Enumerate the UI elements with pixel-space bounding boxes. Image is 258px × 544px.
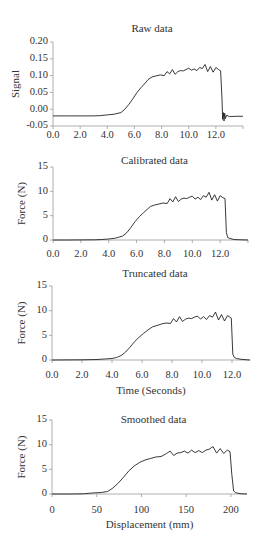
x-tick-labels: 0.02.04.06.08.010.012.0 <box>45 369 241 380</box>
y-tick-label: 0 <box>42 353 47 364</box>
chart-title: Raw data <box>131 22 172 34</box>
y-tick-label: 15 <box>37 413 48 424</box>
x-tick-label: 6.0 <box>130 248 143 259</box>
y-tick-label: -0.05 <box>26 119 48 130</box>
x-tick-labels: 050100150200 <box>49 504 238 515</box>
y-tick-labels: 151050 <box>37 279 48 364</box>
x-tick-label: 8.0 <box>155 129 168 140</box>
x-tick-label: 12.0 <box>211 248 229 259</box>
chart-title: Truncated data <box>122 267 187 279</box>
x-tick-label: 2.0 <box>74 129 87 140</box>
x-tick-label: 4.0 <box>105 369 118 380</box>
y-tick-labels: 0.200.150.100.050.00-0.05 <box>26 35 48 130</box>
y-axis-label: Force (N) <box>15 435 28 478</box>
y-tick-label: 5 <box>42 329 47 340</box>
x-tick-label: 10.0 <box>183 248 201 259</box>
y-tick-labels: 151050 <box>37 413 48 498</box>
x-tick-label: 0.0 <box>45 369 58 380</box>
x-tick-label: 50 <box>91 504 102 515</box>
data-curve <box>52 312 250 360</box>
x-tick-label: 12.0 <box>223 369 241 380</box>
chart-calibrated-data: Calibrated data Force (N) 0.02.04.06.08.… <box>15 154 248 259</box>
x-tick-label: 12.0 <box>207 129 225 140</box>
x-tick-label: 10.0 <box>193 369 211 380</box>
y-tick-label: 0.05 <box>30 86 48 97</box>
x-tick-labels: 0.02.04.06.08.010.012.0 <box>46 248 229 259</box>
chart-smoothed-data: Smoothed data Force (N) Displacement (mm… <box>15 413 247 531</box>
y-axis-label: Signal <box>9 70 21 98</box>
y-tick-label: 0 <box>43 233 48 244</box>
y-tick-label: 10 <box>37 438 48 449</box>
y-tick-label: 0.10 <box>30 69 48 80</box>
x-axis-label: Time (Seconds) <box>116 384 186 397</box>
x-tick-label: 0.0 <box>46 129 59 140</box>
y-tick-label: 10 <box>37 304 48 315</box>
y-tick-label: 10 <box>38 185 49 196</box>
x-tick-label: 4.0 <box>101 129 114 140</box>
data-curve <box>53 65 243 122</box>
chart-title: Calibrated data <box>121 154 188 166</box>
x-tick-label: 200 <box>223 504 239 515</box>
y-tick-label: 0 <box>42 487 47 498</box>
y-tick-label: 5 <box>42 463 47 474</box>
chart-title: Smoothed data <box>121 413 187 425</box>
data-curve <box>53 192 248 240</box>
axes <box>49 286 250 363</box>
x-tick-label: 100 <box>134 504 150 515</box>
x-tick-label: 2.0 <box>75 369 88 380</box>
x-tick-labels: 0.02.04.06.08.010.012.0 <box>46 129 225 140</box>
x-axis-label: Displacement (mm) <box>106 518 194 531</box>
chart-raw-data: Raw data Signal 0.02.04.06.08.010.012.0 … <box>9 22 243 140</box>
x-tick-label: 4.0 <box>102 248 115 259</box>
y-tick-label: 5 <box>43 209 48 220</box>
x-tick-label: 0.0 <box>46 248 59 259</box>
x-tick-label: 6.0 <box>128 129 141 140</box>
y-tick-label: 15 <box>38 160 49 171</box>
data-curve <box>52 447 247 494</box>
x-tick-label: 0 <box>49 504 54 515</box>
y-tick-label: 0.15 <box>30 52 48 63</box>
x-tick-label: 8.0 <box>165 369 178 380</box>
x-tick-label: 2.0 <box>74 248 87 259</box>
y-axis-label: Force (N) <box>15 182 28 225</box>
y-axis-label: Force (N) <box>15 301 28 344</box>
axes <box>49 420 247 497</box>
x-tick-label: 6.0 <box>135 369 148 380</box>
y-tick-label: 15 <box>37 279 48 290</box>
x-tick-label: 10.0 <box>180 129 198 140</box>
x-tick-label: 150 <box>178 504 194 515</box>
chart-truncated-data: Truncated data Force (N) Time (Seconds) … <box>15 267 250 397</box>
axes <box>50 167 248 243</box>
y-tick-label: 0.20 <box>30 35 48 46</box>
x-tick-label: 8.0 <box>158 248 171 259</box>
figure: Raw data Signal 0.02.04.06.08.010.012.0 … <box>0 0 258 544</box>
y-tick-label: 0.00 <box>30 103 48 114</box>
y-tick-labels: 151050 <box>38 160 49 244</box>
